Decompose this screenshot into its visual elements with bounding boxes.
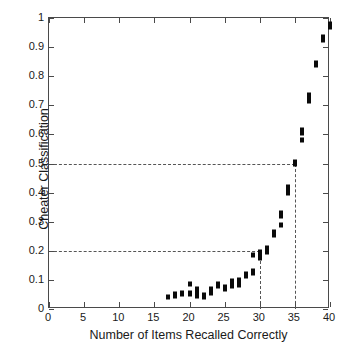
reference-line-vertical — [260, 251, 261, 309]
x-axis-tick — [225, 302, 226, 307]
scatter-point — [223, 286, 227, 291]
y-tick-label: 1 — [38, 11, 44, 23]
scatter-point — [237, 283, 241, 288]
scatter-point — [307, 93, 311, 98]
scatter-point — [251, 270, 255, 275]
scatter-point — [251, 269, 255, 274]
y-axis-tick — [323, 47, 328, 48]
scatter-point — [209, 288, 213, 293]
scatter-point — [321, 37, 325, 42]
scatter-point — [279, 210, 283, 215]
x-tick-label: 20 — [182, 311, 194, 323]
y-axis-tick — [49, 18, 54, 19]
scatter-point — [188, 282, 192, 287]
x-axis-title: Number of Items Recalled Correctly — [48, 328, 329, 342]
scatter-point — [272, 229, 276, 234]
y-axis-tick — [323, 76, 328, 77]
y-axis-tick — [323, 251, 328, 252]
scatter-point — [230, 282, 234, 287]
scatter-point — [216, 282, 220, 287]
x-axis-tick — [295, 18, 296, 23]
scatter-point — [286, 187, 290, 192]
scatter-point — [300, 128, 304, 133]
x-axis-tick — [154, 302, 155, 307]
scatter-points-layer — [49, 18, 328, 307]
scatter-point — [230, 279, 234, 284]
x-tick-label: 10 — [112, 311, 124, 323]
scatter-point — [180, 290, 184, 295]
y-axis-tick — [323, 309, 328, 310]
scatter-point — [188, 292, 192, 297]
chart-figure: 0510152025303540 00.10.20.30.40.50.60.70… — [0, 0, 347, 352]
x-tick-label: 25 — [218, 311, 230, 323]
scatter-point — [258, 256, 262, 261]
x-axis-tick — [190, 302, 191, 307]
x-axis-tick — [190, 18, 191, 23]
x-axis-tick — [225, 18, 226, 23]
scatter-point — [265, 245, 269, 250]
scatter-point — [293, 160, 297, 165]
scatter-point — [237, 277, 241, 282]
x-axis-tick — [260, 302, 261, 307]
y-axis-tick — [323, 134, 328, 135]
y-axis-tick — [323, 280, 328, 281]
scatter-point — [230, 280, 234, 285]
scatter-point — [195, 293, 199, 298]
scatter-point — [244, 272, 248, 277]
scatter-point — [195, 289, 199, 294]
reference-line-horizontal — [49, 251, 260, 252]
scatter-point — [244, 273, 248, 278]
y-axis-title: Cheater Classification — [37, 49, 51, 289]
scatter-point — [321, 34, 325, 39]
y-axis-tick — [323, 222, 328, 223]
scatter-point — [279, 213, 283, 218]
x-axis-tick — [260, 18, 261, 23]
x-axis-tick — [119, 302, 120, 307]
scatter-point — [173, 293, 177, 298]
scatter-point — [293, 161, 297, 166]
scatter-point — [272, 232, 276, 237]
y-axis-tick — [323, 164, 328, 165]
scatter-point — [173, 292, 177, 297]
scatter-point — [265, 250, 269, 255]
x-axis-tick — [49, 302, 50, 307]
scatter-point — [237, 280, 241, 285]
scatter-point — [209, 290, 213, 295]
scatter-point — [223, 285, 227, 290]
y-axis-tick — [323, 193, 328, 194]
scatter-point — [209, 286, 213, 291]
reference-line-vertical — [295, 164, 296, 310]
scatter-point — [258, 253, 262, 258]
scatter-point — [314, 61, 318, 66]
scatter-point — [216, 283, 220, 288]
x-axis-tick — [330, 302, 331, 307]
scatter-point — [202, 293, 206, 298]
y-tick-label: 0 — [38, 302, 44, 314]
x-tick-label: 5 — [80, 311, 86, 323]
y-axis-tick — [323, 18, 328, 19]
scatter-point — [188, 290, 192, 295]
y-axis-tick — [323, 105, 328, 106]
x-axis-tick — [295, 302, 296, 307]
scatter-point — [166, 295, 170, 300]
x-tick-label: 30 — [253, 311, 265, 323]
scatter-point — [230, 283, 234, 288]
scatter-point — [195, 292, 199, 297]
reference-lines-layer — [49, 18, 328, 307]
scatter-point — [300, 138, 304, 143]
scatter-point — [195, 286, 199, 291]
x-tick-label: 0 — [45, 311, 51, 323]
x-axis-tick — [330, 18, 331, 23]
reference-line-horizontal — [49, 164, 295, 165]
x-axis-tick — [84, 302, 85, 307]
y-axis-tick — [49, 309, 54, 310]
scatter-point — [328, 24, 332, 29]
x-tick-label: 40 — [323, 311, 335, 323]
axis-ticks-layer — [49, 18, 328, 307]
scatter-point — [314, 62, 318, 67]
scatter-point — [279, 222, 283, 227]
scatter-point — [286, 190, 290, 195]
plot-area — [48, 17, 329, 308]
x-tick-label: 35 — [288, 311, 300, 323]
scatter-point — [307, 96, 311, 101]
